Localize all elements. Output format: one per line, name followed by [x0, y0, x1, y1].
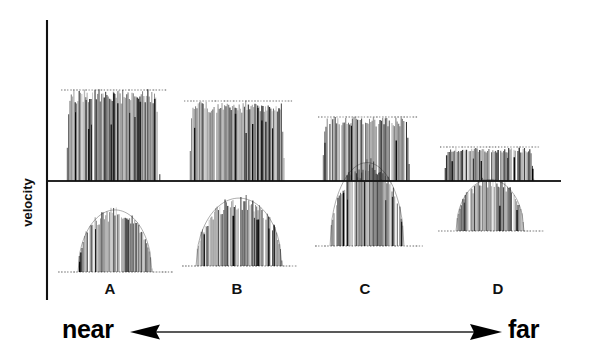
dotted-ceiling-A — [140, 89, 142, 90]
dotted-floor-D — [542, 230, 544, 231]
dotted-ceiling-B — [291, 100, 292, 101]
dotted-ceiling-C — [336, 116, 337, 117]
dotted-ceiling-A — [156, 89, 157, 90]
dotted-ceiling-C — [394, 116, 396, 117]
dotted-ceiling-C — [397, 116, 399, 117]
dotted-ceiling-C — [410, 116, 411, 117]
dotted-ceiling-D — [507, 146, 508, 147]
dotted-ceiling-C — [400, 116, 402, 117]
dotted-ceiling-B — [196, 100, 197, 101]
dotted-ceiling-A — [107, 89, 109, 90]
dotted-floor-B — [289, 265, 291, 266]
dotted-ceiling-D — [486, 146, 487, 147]
dotted-ceiling-D — [510, 146, 511, 147]
dotted-ceiling-A — [149, 89, 150, 90]
dotted-ceiling-C — [330, 116, 331, 117]
dotted-ceiling-B — [242, 100, 243, 101]
dotted-ceiling-C — [352, 116, 353, 117]
dotted-ceiling-D — [452, 146, 454, 147]
dotted-floor-A — [67, 271, 68, 272]
dotted-floor-A — [58, 271, 60, 272]
dotted-ceiling-A — [128, 89, 130, 90]
dotted-ceiling-C — [376, 116, 378, 117]
dotted-ceiling-D — [483, 146, 485, 147]
dotted-ceiling-C — [364, 116, 365, 117]
dotted-ceiling-D — [519, 146, 521, 147]
dotted-floor-B — [292, 265, 293, 266]
dotted-ceiling-B — [257, 100, 259, 101]
dotted-ceiling-A — [137, 89, 138, 90]
dotted-ceiling-C — [342, 116, 343, 117]
dotted-floor-D — [533, 230, 535, 231]
dotted-floor-D — [441, 230, 442, 231]
dotted-ceiling-B — [254, 100, 256, 101]
dotted-ceiling-A — [134, 89, 136, 90]
dotted-ceiling-D — [495, 146, 496, 147]
dotted-ceiling-B — [218, 100, 219, 101]
dotted-floor-C — [327, 245, 328, 246]
dotted-ceiling-C — [403, 116, 405, 117]
cluster-label-c: C — [353, 280, 377, 297]
dotted-ceiling-D — [498, 146, 499, 147]
right-arrowhead — [470, 324, 502, 340]
cluster-label-a: A — [98, 280, 122, 297]
dotted-ceiling-D — [538, 146, 539, 147]
dotted-ceiling-D — [528, 146, 529, 147]
dotted-floor-B — [286, 265, 288, 266]
dotted-floor-C — [318, 245, 319, 246]
dotted-ceiling-A — [76, 89, 77, 90]
dotted-ceiling-C — [321, 116, 322, 117]
dotted-floor-D — [536, 230, 537, 231]
dotted-ceiling-B — [187, 100, 188, 101]
dotted-floor-A — [70, 271, 72, 272]
dotted-ceiling-A — [64, 89, 66, 90]
dotted-ceiling-A — [101, 89, 103, 90]
dotted-ceiling-B — [211, 100, 213, 101]
dotted-ceiling-C — [382, 116, 384, 117]
dotted-floor-A — [156, 271, 158, 272]
dotted-floor-A — [171, 271, 173, 272]
dotted-ceiling-C — [324, 116, 326, 117]
dotted-ceiling-B — [230, 100, 231, 101]
dotted-ceiling-B — [272, 100, 274, 101]
dotted-ceiling-D — [464, 146, 465, 147]
dotted-ceiling-C — [385, 116, 386, 117]
dotted-ceiling-B — [239, 100, 240, 101]
dotted-ceiling-A — [88, 89, 89, 90]
dotted-ceiling-B — [236, 100, 237, 101]
dotted-floor-D — [539, 230, 541, 231]
dotted-ceiling-B — [260, 100, 261, 101]
dotted-floor-C — [413, 245, 415, 246]
dotted-floor-D — [447, 230, 448, 231]
dotted-ceiling-C — [367, 116, 369, 117]
dotted-ceiling-A — [82, 89, 84, 90]
dotted-ceiling-C — [361, 116, 363, 117]
dotted-ceiling-B — [285, 100, 287, 101]
dotted-ceiling-C — [327, 116, 328, 117]
dotted-ceiling-C — [379, 116, 380, 117]
dotted-ceiling-A — [85, 89, 86, 90]
near-label: near — [62, 315, 114, 344]
dotted-ceiling-D — [504, 146, 506, 147]
dotted-ceiling-A — [125, 89, 126, 90]
y-axis-label: velocity — [2, 195, 52, 211]
dotted-ceiling-B — [190, 100, 192, 101]
dotted-ceiling-B — [227, 100, 229, 101]
dotted-ceiling-A — [153, 89, 155, 90]
dotted-floor-B — [191, 265, 192, 266]
dotted-floor-B — [185, 265, 187, 266]
dotted-floor-A — [162, 271, 164, 272]
dotted-floor-A — [165, 271, 167, 272]
dotted-ceiling-B — [202, 100, 204, 101]
dotted-ceiling-D — [522, 146, 523, 147]
dotted-ceiling-D — [513, 146, 515, 147]
dotted-ceiling-B — [221, 100, 222, 101]
figure-canvas: velocity ABCD near far — [0, 0, 596, 357]
dotted-ceiling-C — [406, 116, 407, 117]
dotted-floor-D — [450, 230, 451, 231]
dotted-ceiling-D — [440, 146, 441, 147]
dotted-floor-C — [315, 245, 317, 246]
dotted-ceiling-C — [370, 116, 371, 117]
dotted-floor-B — [182, 265, 184, 266]
dotted-ceiling-D — [535, 146, 537, 147]
